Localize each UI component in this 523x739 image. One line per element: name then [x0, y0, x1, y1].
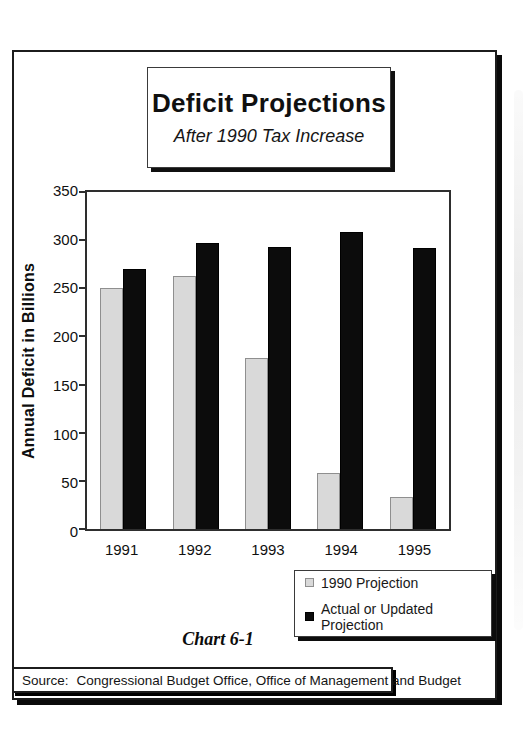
y-tick-label-50: 50: [61, 474, 78, 491]
y-tick-label-100: 100: [53, 425, 78, 442]
bar-1992-series-1: [196, 243, 219, 529]
y-tick-mark-50: [79, 480, 85, 482]
source-label: Source:: [22, 673, 69, 688]
y-tick-label-200: 200: [53, 328, 78, 345]
chart-title: Deficit Projections: [152, 88, 386, 119]
source-text: Congressional Budget Office, Office of M…: [77, 673, 462, 688]
bar-1991-series-1: [123, 269, 146, 529]
y-tick-label-300: 300: [53, 230, 78, 247]
legend-item-0: 1990 Projection: [305, 575, 481, 591]
scan-artifact: [514, 90, 523, 630]
x-tick-label-1995: 1995: [378, 541, 451, 558]
y-tick-mark-0: [79, 528, 85, 530]
chart-caption: Chart 6-1: [142, 629, 294, 650]
y-tick-mark-100: [79, 432, 85, 434]
bar-group-1994: [304, 192, 376, 529]
legend-marker-icon-0: [305, 578, 314, 587]
legend-box: 1990 ProjectionActual or Updated Project…: [294, 570, 492, 637]
source-box: Source: Congressional Budget Office, Off…: [12, 667, 393, 693]
legend-marker-icon-1: [305, 612, 314, 621]
legend-item-1: Actual or Updated Projection: [305, 601, 481, 633]
legend-label-1: Actual or Updated Projection: [321, 601, 481, 633]
bar-1995-series-1: [413, 248, 436, 529]
scanned-chart-page: Deficit Projections After 1990 Tax Incre…: [0, 0, 523, 739]
bar-1991-series-0: [100, 288, 123, 529]
bar-1994-series-0: [317, 473, 340, 529]
y-axis-ticks: 350300250200150100500: [30, 190, 78, 531]
chart-frame: Deficit Projections After 1990 Tax Incre…: [12, 50, 497, 700]
chart-subtitle: After 1990 Tax Increase: [174, 126, 364, 147]
y-tick-label-250: 250: [53, 279, 78, 296]
y-tick-mark-350: [79, 191, 85, 193]
y-tick-label-0: 0: [70, 523, 78, 540]
bar-1993-series-1: [268, 247, 291, 529]
x-axis-labels: 19911992199319941995: [85, 541, 451, 558]
x-tick-label-1993: 1993: [231, 541, 304, 558]
x-tick-label-1994: 1994: [305, 541, 378, 558]
y-tick-mark-150: [79, 384, 85, 386]
y-tick-label-150: 150: [53, 376, 78, 393]
bar-1995-series-0: [390, 497, 413, 529]
y-tick-mark-200: [79, 335, 85, 337]
bar-group-1995: [377, 192, 449, 529]
x-tick-label-1992: 1992: [158, 541, 231, 558]
x-tick-label-1991: 1991: [85, 541, 158, 558]
bar-group-1991: [87, 192, 159, 529]
y-tick-label-350: 350: [53, 182, 78, 199]
legend-label-0: 1990 Projection: [321, 575, 418, 591]
bar-1993-series-0: [245, 358, 268, 529]
bar-group-1992: [159, 192, 231, 529]
y-tick-mark-250: [79, 287, 85, 289]
bar-group-1993: [232, 192, 304, 529]
plot-area: [85, 190, 451, 531]
title-box: Deficit Projections After 1990 Tax Incre…: [147, 67, 391, 168]
y-tick-mark-300: [79, 239, 85, 241]
bar-1992-series-0: [173, 276, 196, 529]
bars-layer: [87, 192, 449, 529]
bar-1994-series-1: [340, 232, 363, 529]
